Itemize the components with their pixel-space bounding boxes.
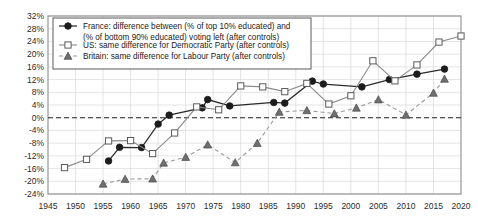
data-point-us bbox=[304, 80, 310, 86]
y-tick-label: -24% bbox=[24, 189, 44, 199]
x-tick-label: 1990 bbox=[286, 201, 305, 211]
legend-label-britain: Britain: same difference for Labour Part… bbox=[83, 52, 285, 61]
x-tick-label: 1955 bbox=[94, 201, 113, 211]
y-tick-label: 28% bbox=[27, 24, 44, 34]
data-point-us bbox=[414, 62, 420, 68]
data-point-us bbox=[392, 78, 398, 84]
x-tick-label: 2005 bbox=[369, 201, 388, 211]
data-point-france bbox=[359, 84, 366, 91]
y-tick-label: 24% bbox=[27, 36, 44, 46]
data-point-france bbox=[105, 158, 112, 165]
y-tick-label: -8% bbox=[29, 138, 45, 148]
x-tick-label: 1965 bbox=[149, 201, 168, 211]
y-tick-label: 12% bbox=[27, 75, 44, 85]
x-tick-label: 2020 bbox=[452, 201, 471, 211]
data-point-us bbox=[128, 138, 134, 144]
data-point-france bbox=[441, 66, 448, 73]
data-point-france bbox=[116, 144, 123, 151]
chart-container: 32%28%24%20%16%12%8%4%0%-4%-8%-12%-16%-2… bbox=[0, 0, 478, 222]
data-point-us bbox=[282, 89, 288, 95]
data-point-britain bbox=[149, 175, 157, 182]
y-tick-label: -4% bbox=[29, 125, 45, 135]
data-point-us bbox=[260, 84, 266, 90]
data-point-france bbox=[414, 71, 421, 78]
data-point-france bbox=[270, 99, 277, 106]
data-point-us bbox=[172, 130, 178, 136]
data-point-us bbox=[326, 101, 332, 107]
y-tick-label: 20% bbox=[27, 49, 44, 59]
data-point-france bbox=[226, 103, 233, 110]
x-tick-label: 1950 bbox=[66, 201, 85, 211]
y-tick-label: -16% bbox=[24, 164, 44, 174]
data-point-us bbox=[150, 151, 156, 157]
y-tick-label: 4% bbox=[32, 100, 45, 110]
data-point-us bbox=[370, 58, 376, 64]
data-point-france bbox=[204, 96, 211, 103]
data-point-britain bbox=[375, 96, 383, 103]
legend-label-france: France: difference between (% of top 10%… bbox=[83, 22, 291, 31]
x-tick-label: 2015 bbox=[424, 201, 443, 211]
chart-legend: France: difference between (% of top 10%… bbox=[53, 18, 311, 69]
data-point-us bbox=[436, 39, 442, 45]
data-point-us bbox=[348, 93, 354, 99]
y-axis-tick-labels: 32%28%24%20%16%12%8%4%0%-4%-8%-12%-16%-2… bbox=[24, 11, 44, 199]
x-tick-label: 1995 bbox=[314, 201, 333, 211]
data-point-france bbox=[155, 121, 162, 128]
data-point-britain bbox=[441, 75, 449, 82]
x-tick-label: 2000 bbox=[341, 201, 360, 211]
x-tick-label: 1980 bbox=[231, 201, 250, 211]
data-point-britain bbox=[204, 141, 212, 148]
legend-marker-france bbox=[65, 23, 72, 30]
y-tick-label: 0% bbox=[32, 113, 45, 123]
series-britain bbox=[99, 75, 448, 187]
data-point-us bbox=[216, 107, 222, 113]
data-point-britain bbox=[121, 175, 129, 182]
legend-marker-us bbox=[65, 42, 71, 48]
y-tick-label: 16% bbox=[27, 62, 44, 72]
data-point-france bbox=[320, 81, 327, 88]
x-tick-label: 1970 bbox=[176, 201, 195, 211]
data-point-us bbox=[194, 104, 200, 110]
data-point-britain bbox=[402, 111, 410, 118]
y-tick-label: -20% bbox=[24, 176, 44, 186]
x-tick-label: 1960 bbox=[121, 201, 140, 211]
y-tick-label: 8% bbox=[32, 87, 45, 97]
data-point-us bbox=[238, 83, 244, 89]
data-point-us bbox=[83, 156, 89, 162]
data-point-us bbox=[61, 165, 67, 171]
legend-label-us: US: same difference for Democratic Party… bbox=[83, 41, 289, 50]
x-tick-label: 2010 bbox=[396, 201, 415, 211]
data-point-britain bbox=[303, 107, 311, 114]
data-point-us bbox=[458, 33, 464, 39]
data-point-britain bbox=[182, 153, 190, 160]
data-point-france bbox=[166, 112, 173, 119]
x-tick-label: 1985 bbox=[259, 201, 278, 211]
data-point-france bbox=[281, 100, 288, 107]
y-tick-label: -12% bbox=[24, 151, 44, 161]
y-tick-label: 32% bbox=[27, 11, 44, 21]
x-axis-tick-labels: 1945195019551960196519701975198019851990… bbox=[39, 201, 471, 211]
line-chart: 32%28%24%20%16%12%8%4%0%-4%-8%-12%-16%-2… bbox=[0, 0, 478, 222]
x-tick-label: 1975 bbox=[204, 201, 223, 211]
data-point-us bbox=[105, 138, 111, 144]
x-tick-label: 1945 bbox=[39, 201, 58, 211]
